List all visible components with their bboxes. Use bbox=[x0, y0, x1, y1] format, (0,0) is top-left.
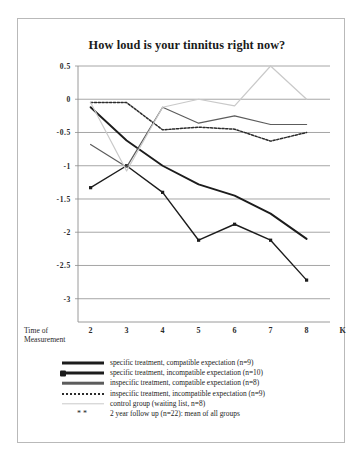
series-marker bbox=[233, 223, 236, 226]
x-tick-label: K bbox=[339, 326, 346, 335]
series-marker bbox=[269, 239, 272, 242]
legend-item: specific treatment, compatible expectati… bbox=[60, 358, 340, 368]
y-tick-label: -2.5 bbox=[57, 261, 71, 270]
series-line-5 bbox=[91, 66, 307, 171]
x-tick-label: 7 bbox=[269, 326, 273, 335]
y-tick-label: -0.5 bbox=[57, 128, 71, 137]
x-tick-label: 8 bbox=[305, 326, 309, 335]
y-tick-label: -2 bbox=[63, 228, 71, 237]
legend-swatch-series-5 bbox=[60, 399, 106, 409]
x-tick-label: 6 bbox=[233, 326, 237, 335]
legend-swatch-series-3 bbox=[60, 378, 106, 388]
legend-label: specific treatment, compatible expectati… bbox=[110, 358, 254, 368]
x-tick-label: 5 bbox=[197, 326, 201, 335]
series-line-4 bbox=[91, 103, 307, 142]
x-axis-title-line2: Measurement bbox=[24, 335, 66, 344]
y-tick-label: -1.5 bbox=[57, 195, 71, 204]
legend-label: specific treatment, incompatible expecta… bbox=[110, 368, 263, 378]
legend-swatch-series-2 bbox=[60, 368, 106, 378]
legend-swatch-series-4 bbox=[60, 389, 106, 399]
series-line-2 bbox=[91, 166, 307, 280]
series-marker bbox=[161, 191, 164, 194]
series-marker bbox=[89, 186, 92, 189]
x-axis-title: Time of bbox=[24, 326, 48, 335]
legend-label: 2 year follow up (n=22): mean of all gro… bbox=[110, 409, 240, 419]
legend-item: inspecific treatment, incompatible expec… bbox=[60, 389, 340, 399]
legend-item: inspecific treatment, compatible expecta… bbox=[60, 378, 340, 388]
series-marker bbox=[197, 239, 200, 242]
chart-legend: specific treatment, compatible expectati… bbox=[60, 358, 340, 419]
x-tick-label: 2 bbox=[89, 326, 93, 335]
x-tick-label: 3 bbox=[125, 326, 129, 335]
x-tick-label: 4 bbox=[161, 326, 165, 335]
legend-item: control group (waiting list, n=8) bbox=[60, 399, 340, 409]
followup-star-marker: ** bbox=[338, 228, 348, 237]
y-tick-label: -1 bbox=[63, 162, 71, 171]
legend-swatch-series-1 bbox=[60, 358, 106, 368]
series-marker bbox=[305, 279, 308, 282]
y-tick-label: -3 bbox=[63, 295, 71, 304]
y-tick-label: 0 bbox=[67, 95, 71, 104]
series-group: ** bbox=[89, 66, 348, 282]
legend-item: specific treatment, incompatible expecta… bbox=[60, 368, 340, 378]
legend-swatch-followup-stars: ** bbox=[60, 409, 106, 419]
legend-label: inspecific treatment, compatible expecta… bbox=[110, 378, 259, 388]
legend-item: ** 2 year follow up (n=22): mean of all … bbox=[60, 409, 340, 419]
y-tick-label: 0.5 bbox=[60, 62, 71, 71]
legend-label: control group (waiting list, n=8) bbox=[110, 399, 205, 409]
legend-label: inspecific treatment, incompatible expec… bbox=[110, 389, 265, 399]
